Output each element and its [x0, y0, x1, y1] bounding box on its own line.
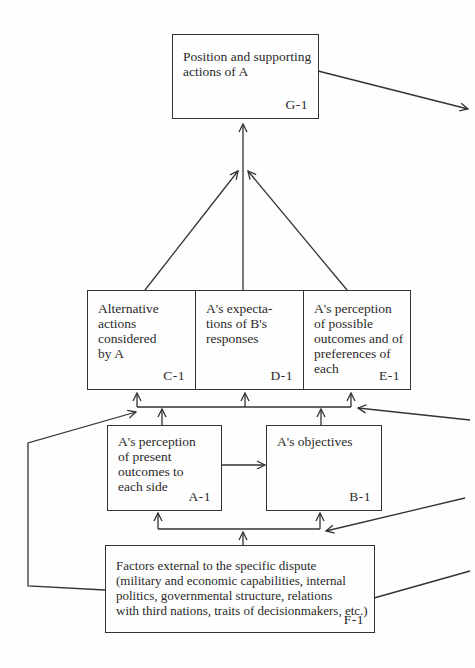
node-label: D-1 [271, 368, 294, 384]
node-text: Position and supporting actions of A [183, 49, 311, 79]
node-f1-external-factors: Factors external to the specific dispute… [105, 545, 375, 633]
node-label: C-1 [163, 368, 185, 384]
node-label: G-1 [286, 97, 309, 113]
node-a1-present-outcomes: A's perception of present outcomes to ea… [107, 425, 222, 511]
node-c1-alternative-actions: Alternative actions considered by A C-1 [87, 290, 196, 390]
node-label: A-1 [189, 489, 212, 505]
node-text: A's perception of possible outcomes and … [314, 301, 403, 376]
node-text: Alternative actions considered by A [98, 301, 159, 361]
node-text: A's objectives [277, 434, 353, 449]
node-text: A's perception of present outcomes to ea… [118, 434, 196, 494]
node-label: F-1 [344, 612, 364, 628]
node-g1-position-and-actions: Position and supporting actions of A G-1 [172, 34, 319, 119]
node-b1-objectives: A's objectives B-1 [266, 425, 382, 511]
node-label: B-1 [349, 489, 371, 505]
node-text: A's expecta- tions of B's responses [206, 301, 273, 346]
node-e1-possible-outcomes: A's perception of possible outcomes and … [303, 290, 411, 390]
node-label: E-1 [379, 368, 400, 384]
node-d1-expectations: A's expecta- tions of B's responses D-1 [195, 290, 304, 390]
node-text: Factors external to the specific dispute… [116, 558, 368, 618]
